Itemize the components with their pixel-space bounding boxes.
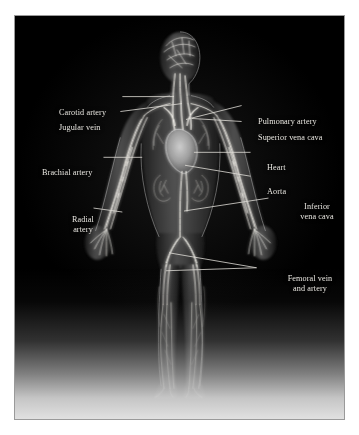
label-heart: Heart — [267, 163, 286, 173]
label-inferior-vena-cava-line-1: Inferior — [287, 202, 345, 212]
label-radial-artery-line-1: Radial — [60, 215, 106, 225]
label-aorta: Aorta — [267, 187, 286, 197]
label-femoral-vein-and-artery: Femoral vein and artery — [273, 274, 345, 294]
label-inferior-vena-cava: Inferior vena cava — [287, 202, 345, 222]
illustration-panel: Carotid artery Jugular vein Brachial art… — [14, 15, 345, 420]
label-radial-artery-line-2: artery — [60, 225, 106, 235]
label-pulmonary-artery: Pulmonary artery — [258, 117, 317, 127]
label-femoral-line-2: and artery — [273, 284, 345, 294]
label-superior-vena-cava: Superior vena cava — [258, 133, 323, 143]
label-radial-artery: Radial artery — [60, 215, 106, 235]
circulatory-system-figure: Carotid artery Jugular vein Brachial art… — [0, 0, 359, 435]
label-inferior-vena-cava-line-2: vena cava — [287, 212, 345, 222]
label-carotid-artery: Carotid artery — [59, 108, 106, 118]
label-brachial-artery: Brachial artery — [42, 168, 92, 178]
label-femoral-line-1: Femoral vein — [273, 274, 345, 284]
label-jugular-vein: Jugular vein — [59, 123, 100, 133]
vascular-network — [91, 37, 271, 397]
